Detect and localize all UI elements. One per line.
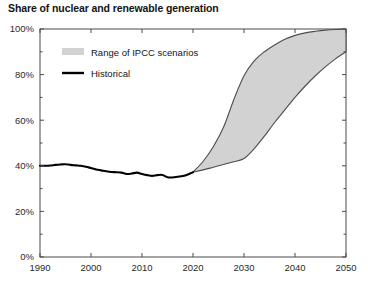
historical-series <box>40 164 193 177</box>
y-axis-tick-label: 80% <box>15 69 35 80</box>
x-axis-tick-label: 2030 <box>233 262 254 273</box>
legend-swatch-band <box>62 48 84 55</box>
legend-label-band: Range of IPCC scenarios <box>91 47 198 58</box>
x-axis-tick-label: 1990 <box>29 262 50 273</box>
x-axis-tick-label: 2050 <box>335 262 356 273</box>
ipcc-band-area <box>193 29 346 172</box>
y-axis-tick-label: 20% <box>15 206 35 217</box>
ipcc-scenario-band <box>193 29 346 172</box>
x-axis-tick-label: 2040 <box>284 262 305 273</box>
x-axis-tick-label: 2020 <box>182 262 203 273</box>
chart-plot: 0%20%40%60%80%100% 199020002010202020302… <box>0 0 368 282</box>
y-axis-tick-label: 100% <box>10 23 35 34</box>
x-axis-tick-label: 2010 <box>131 262 152 273</box>
legend-label-line: Historical <box>91 68 130 79</box>
x-axis-tick-label: 2000 <box>80 262 101 273</box>
chart-container: Share of nuclear and renewable generatio… <box>0 0 368 282</box>
historical-line <box>40 164 193 177</box>
x-axis-labels: 1990200020102020203020402050 <box>29 262 356 273</box>
y-axis-labels: 0%20%40%60%80%100% <box>10 23 35 262</box>
y-axis-tick-label: 0% <box>20 251 34 262</box>
y-axis-tick-label: 40% <box>15 160 35 171</box>
y-axis-tick-label: 60% <box>15 115 35 126</box>
chart-legend: Range of IPCC scenarios Historical <box>62 47 198 79</box>
